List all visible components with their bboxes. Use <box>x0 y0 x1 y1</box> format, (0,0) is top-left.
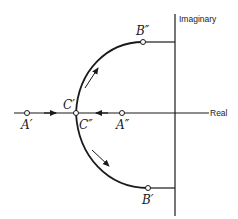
point-a-double-prime-marker <box>120 111 125 116</box>
point-a-prime-marker <box>25 111 30 116</box>
contour-diagram: Imaginary Real A′ A″ C′ C″ B″ B′ <box>0 0 238 219</box>
arc-arrow-up-icon <box>85 68 98 88</box>
label-c-prime: C′ <box>63 98 75 112</box>
label-a-double-prime: A″ <box>115 118 130 132</box>
real-axis-label: Real <box>210 108 228 118</box>
label-b-double-prime: B″ <box>135 24 150 38</box>
label-a-prime: A′ <box>20 118 33 132</box>
label-c-double-prime: C″ <box>79 118 93 132</box>
semicircle-contour <box>76 42 148 188</box>
point-b-double-prime-marker <box>141 40 146 45</box>
point-b-prime-marker <box>146 186 151 191</box>
label-b-prime: B′ <box>141 193 154 207</box>
imaginary-axis-label: Imaginary <box>179 14 217 24</box>
